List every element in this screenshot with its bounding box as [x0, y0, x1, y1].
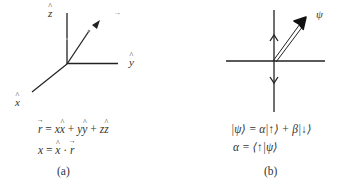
x-hat-label: x — [15, 97, 20, 108]
z-axis-tick — [66, 38, 68, 40]
y-hat-label: y — [129, 57, 134, 68]
caption-b: (b) — [264, 166, 277, 178]
equation-position-vector: r = xx + yy + zz — [38, 124, 109, 136]
vector-tail-dot — [88, 30, 91, 33]
equation-alpha-amplitude: α = ⟨↑|ψ⟩ — [233, 142, 278, 154]
equation-state-expansion: |ψ⟩ = α|↑⟩ + β|↓⟩ — [231, 124, 311, 136]
position-vector-arrowhead — [92, 20, 100, 29]
equation-x-projection: x = x · r — [38, 145, 75, 157]
psi-label: ψ — [316, 9, 323, 20]
vector-marker: → — [113, 9, 121, 17]
x-axis — [32, 64, 67, 92]
panel-a-axes — [32, 13, 118, 92]
psi-vector-line-2 — [276, 26, 303, 62]
psi-vector-arrowhead — [294, 17, 306, 30]
z-hat-label: z — [48, 8, 52, 19]
psi-vector-line-1 — [273, 24, 300, 61]
caption-a: (a) — [57, 166, 70, 178]
diagram-canvas — [0, 0, 344, 191]
panel-b-axes — [226, 10, 325, 112]
position-vector — [67, 31, 89, 64]
